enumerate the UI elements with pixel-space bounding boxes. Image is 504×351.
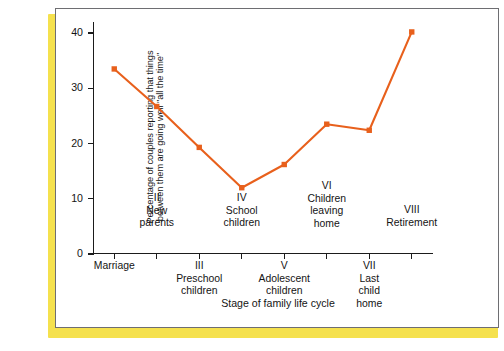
y-tick-label-20: 20 <box>57 138 83 149</box>
x-axis-title: Stage of family life cycle <box>56 297 500 309</box>
data-point-4 <box>282 162 287 167</box>
series-markers <box>112 29 415 190</box>
figure-frame: Percentage of couples reporting that thi… <box>55 8 499 328</box>
data-point-6 <box>367 128 372 133</box>
data-point-3 <box>239 185 244 190</box>
series-polyline <box>114 32 412 188</box>
data-point-7 <box>409 29 414 34</box>
x-category-label-iii: III Preschool children <box>156 260 242 298</box>
data-point-0 <box>112 66 117 71</box>
x-category-label-marriage: Marriage <box>71 260 157 273</box>
x-category-label-iv: IV School children <box>199 192 285 230</box>
y-tick-label-10: 10 <box>57 193 83 204</box>
y-tick-label-30: 30 <box>57 82 83 93</box>
x-category-label-viii: VIII Retirement <box>369 204 455 229</box>
x-category-label-vi: VI Children leaving home <box>284 180 370 231</box>
y-tick-label-0: 0 <box>57 248 83 259</box>
data-point-1 <box>154 104 159 109</box>
data-point-5 <box>324 121 329 126</box>
x-category-label-ii: II New parents <box>114 192 200 230</box>
figure-page: Percentage of couples reporting that thi… <box>0 0 504 351</box>
x-category-label-v: V Adolescent children <box>241 260 327 298</box>
y-tick-label-40: 40 <box>57 27 83 38</box>
data-point-2 <box>197 145 202 150</box>
